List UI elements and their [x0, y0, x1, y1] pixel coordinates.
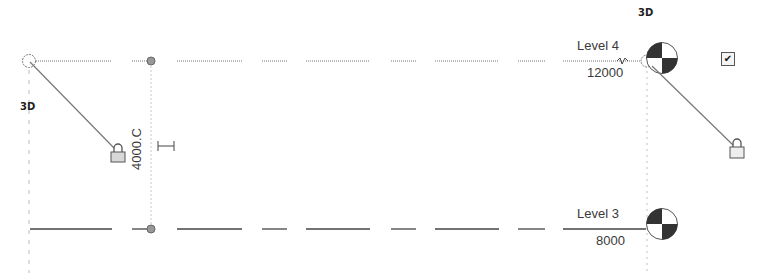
dimension-drag-icon[interactable]: [158, 141, 174, 151]
level-3-name[interactable]: Level 3: [577, 206, 619, 221]
right-3d-tag[interactable]: 3D: [638, 7, 653, 18]
right-alignment-leader: [652, 66, 733, 145]
checkmark-icon: ✔: [724, 53, 732, 64]
dimension-value[interactable]: 4000.C: [129, 128, 144, 170]
elevation-canvas[interactable]: 3D 3D Level 4 12000 Level 3 8000 4000.C …: [0, 0, 759, 273]
dimension-grip-top[interactable]: [147, 57, 155, 65]
level-4-head-marker-icon[interactable]: [647, 43, 678, 74]
level-4-name[interactable]: Level 4: [577, 38, 619, 53]
hide-bubble-checkbox[interactable]: ✔: [721, 52, 735, 66]
level-3-head-marker-icon[interactable]: [647, 209, 678, 240]
level-3-elevation[interactable]: 8000: [596, 233, 625, 248]
left-3d-tag[interactable]: 3D: [20, 101, 35, 112]
left-alignment-leader: [30, 62, 114, 148]
lock-icon[interactable]: [730, 139, 744, 158]
dimension-grip-bottom[interactable]: [147, 225, 155, 233]
level-4-elbow-icon[interactable]: [617, 58, 628, 64]
level-4-elevation[interactable]: 12000: [587, 65, 623, 80]
